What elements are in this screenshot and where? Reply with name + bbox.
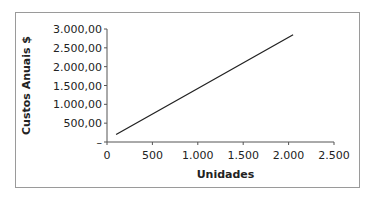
x-tick-label: 2.000 bbox=[273, 149, 305, 162]
y-tick-label: – bbox=[97, 136, 103, 149]
y-axis: –500,001.000,001.500,002.000,002.500,003… bbox=[53, 23, 107, 149]
x-axis: 05001.0001.5002.0002.500 bbox=[104, 142, 350, 162]
y-tick-label: 1.500,00 bbox=[53, 80, 102, 93]
y-axis-title: Custos Anuais $ bbox=[20, 36, 33, 135]
x-tick-label: 500 bbox=[142, 149, 163, 162]
x-tick-label: 1.500 bbox=[227, 149, 259, 162]
x-axis-title: Unidades bbox=[197, 168, 255, 181]
line-chart: –500,001.000,001.500,002.000,002.500,003… bbox=[0, 0, 376, 202]
y-tick-label: 2.000,00 bbox=[53, 61, 102, 74]
x-tick-label: 0 bbox=[104, 149, 111, 162]
y-tick-label: 3.000,00 bbox=[53, 23, 102, 36]
series-layer bbox=[116, 35, 293, 135]
y-tick-label: 1.000,00 bbox=[53, 98, 102, 111]
x-tick-label: 2.500 bbox=[318, 149, 350, 162]
series-line bbox=[116, 35, 293, 135]
x-tick-label: 1.000 bbox=[182, 149, 214, 162]
y-tick-label: 2.500,00 bbox=[53, 42, 102, 55]
y-tick-label: 500,00 bbox=[64, 117, 103, 130]
